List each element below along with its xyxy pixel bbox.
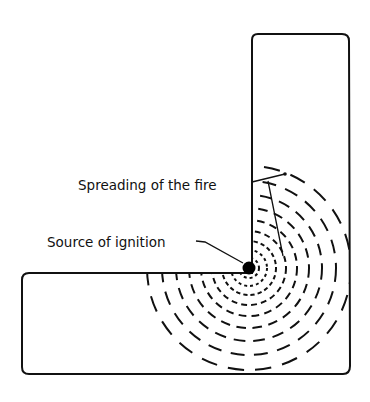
source-leader	[196, 241, 243, 263]
fire-spread-diagram: Spreading of the fire Source of ignition	[0, 0, 370, 402]
spreading-leader-dot	[283, 172, 287, 176]
label-spreading: Spreading of the fire	[78, 177, 217, 193]
spreading-leader	[252, 174, 285, 256]
room-outline	[22, 34, 350, 374]
label-source: Source of ignition	[47, 234, 165, 250]
ignition-point	[243, 262, 256, 275]
